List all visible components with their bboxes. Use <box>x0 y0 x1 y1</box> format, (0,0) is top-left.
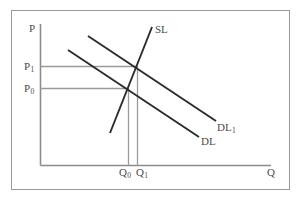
supply-line-label: SL <box>155 24 168 35</box>
y-tick-label-p0: P0 <box>24 83 34 94</box>
y-tick-p0-subscript: 0 <box>30 87 34 96</box>
demand-line-shifted-label-base: DL <box>217 121 232 133</box>
y-tick-p1-subscript: 1 <box>30 65 34 74</box>
y-tick-label-p1: P1 <box>24 61 34 72</box>
demand-line-shifted-label: DL1 <box>217 122 236 133</box>
x-tick-q1-subscript: 1 <box>144 171 148 180</box>
x-axis-label: Q <box>267 167 275 178</box>
figure-border <box>12 11 290 190</box>
x-tick-q0-base: Q <box>119 166 127 178</box>
supply-line <box>110 27 152 133</box>
economics-diagram-figure: P Q P1 P0 Q0 Q1 SL DL DL1 <box>0 0 302 206</box>
demand-line-original <box>68 50 199 137</box>
demand-line-original-label: DL <box>201 136 216 147</box>
x-tick-label-q1: Q1 <box>136 167 148 178</box>
diagram-canvas <box>0 0 302 206</box>
x-tick-q0-subscript: 0 <box>127 171 131 180</box>
demand-line-shifted <box>88 36 216 121</box>
y-axis-label: P <box>29 23 35 34</box>
demand-line-shifted-label-subscript: 1 <box>232 126 236 135</box>
x-tick-q1-base: Q <box>136 166 144 178</box>
x-tick-label-q0: Q0 <box>119 167 131 178</box>
